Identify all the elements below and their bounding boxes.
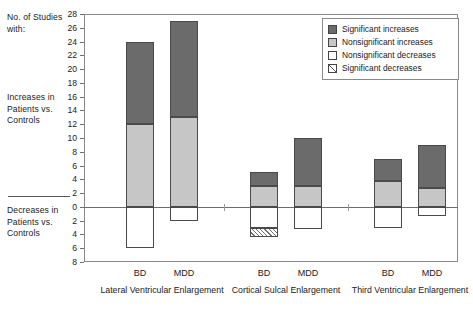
y-tick-mark xyxy=(80,110,84,111)
y-tick-label: 4 xyxy=(72,175,77,184)
y-tick-mark xyxy=(80,69,84,70)
segment-nonsignificant-increases xyxy=(250,186,278,207)
x-group-label: Third Ventricular Enlargement xyxy=(340,285,473,296)
segment-significant-increases xyxy=(250,172,278,186)
y-tick-mark xyxy=(80,221,84,222)
y-tick-label: 6 xyxy=(72,161,77,170)
segment-nonsignificant-decreases xyxy=(126,207,154,248)
y-tick-label: 12 xyxy=(67,120,77,129)
y-tick-label: 26 xyxy=(67,23,77,32)
segment-nonsignificant-decreases xyxy=(170,207,198,221)
legend: Significant increasesNonsignificant incr… xyxy=(322,18,459,80)
y-tick-mark xyxy=(80,14,84,15)
x-tick-label: MDD xyxy=(174,268,195,279)
y-tick-label: 18 xyxy=(67,79,77,88)
legend-swatch-sig-dec xyxy=(328,64,337,73)
segment-nonsignificant-increases xyxy=(374,181,402,207)
segment-nonsignificant-decreases xyxy=(374,207,402,228)
y-tick-label: 4 xyxy=(72,230,77,239)
y-tick-mark xyxy=(80,55,84,56)
y-tick-mark xyxy=(80,262,84,263)
segment-nonsignificant-decreases xyxy=(418,207,446,216)
segment-significant-increases xyxy=(170,21,198,117)
legend-item: Significant increases xyxy=(328,23,454,36)
y-tick-label: 8 xyxy=(72,147,77,156)
segment-significant-increases xyxy=(374,159,402,181)
bar-bd-1 xyxy=(126,14,154,262)
axis-caption-header: No. of Studies with: xyxy=(7,12,73,35)
y-tick-label: 8 xyxy=(72,258,77,267)
y-tick-mark xyxy=(80,193,84,194)
segment-nonsignificant-increases xyxy=(170,117,198,207)
bar-bd-2 xyxy=(250,14,278,262)
legend-swatch-non-dec xyxy=(328,51,337,60)
x-group-label: Lateral Ventricular Enlargement xyxy=(92,285,232,296)
legend-item: Nonsignificant increases xyxy=(328,36,454,49)
y-tick-label: 2 xyxy=(72,189,77,198)
x-tick-label: BD xyxy=(134,268,147,279)
y-tick-label: 16 xyxy=(67,92,77,101)
y-tick-mark xyxy=(80,179,84,180)
legend-label: Significant decreases xyxy=(342,64,422,73)
legend-swatch-non-inc xyxy=(328,38,337,47)
y-tick-mark xyxy=(80,152,84,153)
y-tick-mark xyxy=(80,97,84,98)
segment-significant-increases xyxy=(294,138,322,186)
x-tick-label: MDD xyxy=(298,268,319,279)
segment-nonsignificant-increases xyxy=(418,188,446,207)
y-tick-label: 0 xyxy=(72,203,77,212)
segment-nonsignificant-increases xyxy=(294,186,322,207)
bar-mdd-1 xyxy=(170,14,198,262)
legend-label: Nonsignificant increases xyxy=(342,38,433,47)
x-tick-label: BD xyxy=(382,268,395,279)
legend-item: Nonsignificant decreases xyxy=(328,49,454,62)
y-tick-label: 22 xyxy=(67,51,77,60)
segment-nonsignificant-decreases xyxy=(294,207,322,229)
legend-item: Significant decreases xyxy=(328,62,454,75)
legend-swatch-sig-inc xyxy=(328,25,337,34)
x-tick-label: MDD xyxy=(422,268,443,279)
y-tick-mark xyxy=(80,248,84,249)
y-tick-mark xyxy=(80,234,84,235)
segment-nonsignificant-decreases xyxy=(250,207,278,228)
segment-significant-increases xyxy=(126,42,154,125)
y-tick-label: 6 xyxy=(72,244,77,253)
axis-caption-decreases: Decreases in Patients vs. Controls xyxy=(7,205,79,240)
y-tick-label: 2 xyxy=(72,216,77,225)
x-tick-label: BD xyxy=(258,268,271,279)
y-tick-label: 14 xyxy=(67,106,77,115)
y-tick-label: 20 xyxy=(67,65,77,74)
group-separator-tick xyxy=(348,204,349,211)
x-group-label: Cortical Sulcal Enlargement xyxy=(216,285,356,296)
y-tick-label: 28 xyxy=(67,10,77,19)
legend-label: Nonsignificant decreases xyxy=(342,51,436,60)
y-tick-mark xyxy=(80,124,84,125)
y-tick-mark xyxy=(80,42,84,43)
y-tick-mark xyxy=(80,138,84,139)
y-tick-label: 24 xyxy=(67,37,77,46)
segment-nonsignificant-increases xyxy=(126,124,154,207)
y-tick-mark xyxy=(80,83,84,84)
y-tick-mark xyxy=(80,166,84,167)
y-tick-label: 10 xyxy=(67,134,77,143)
y-tick-mark xyxy=(80,28,84,29)
legend-label: Significant increases xyxy=(342,25,419,34)
segment-significant-increases xyxy=(418,145,446,188)
group-separator-tick xyxy=(224,204,225,211)
bar-mdd-2 xyxy=(294,14,322,262)
caption-divider xyxy=(8,196,70,197)
segment-significant-decreases xyxy=(250,228,278,237)
